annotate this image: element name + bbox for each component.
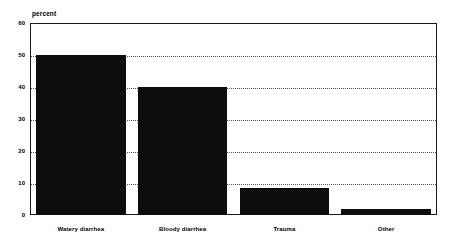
y-axis-tick-label: 30 — [3, 116, 25, 122]
bar — [240, 188, 330, 215]
y-axis-tick-label: 60 — [3, 20, 25, 26]
bars-layer — [30, 23, 437, 215]
y-axis-tick-label: 20 — [3, 148, 25, 154]
x-axis-category-label: Other — [335, 226, 437, 233]
x-axis-category-label: Bloody diarrhea — [132, 226, 234, 233]
y-axis-unit-label: percent — [32, 10, 56, 18]
bar — [341, 209, 431, 215]
bar-chart: percent 0102030405060 Watery diarrheaBlo… — [0, 0, 450, 249]
bar — [138, 87, 228, 215]
x-axis-category-label: Trauma — [234, 226, 336, 233]
x-axis-category-label: Watery diarrhea — [30, 226, 132, 233]
y-axis-tick-label: 50 — [3, 52, 25, 58]
y-axis-tick-label: 0 — [3, 212, 25, 218]
bar — [36, 55, 126, 215]
y-axis-tick-label: 10 — [3, 180, 25, 186]
y-axis-tick-label: 40 — [3, 84, 25, 90]
